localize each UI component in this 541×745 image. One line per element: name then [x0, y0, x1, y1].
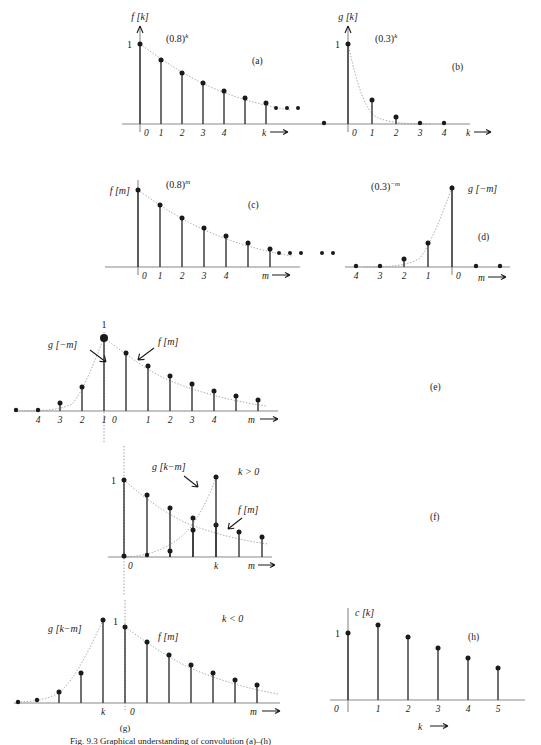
panel-d-tick-4: 0 [456, 271, 461, 281]
panel-g-tick-k: k [101, 707, 106, 717]
panel-d: g [−m] (0.3)−m (d) 4 3 2 1 0 m [320, 180, 510, 283]
panel-g: 1 g [k−m] f [m] k < 0 k 0 m (g) [14, 600, 280, 733]
panel-b-tick-3: 3 [417, 128, 423, 138]
panel-f-amp-label: 1 [111, 475, 116, 486]
panel-b-tick-0: 0 [352, 128, 357, 138]
panel-b-expr-label: (0.3)k [375, 32, 398, 45]
panel-c: f [m] (0.8)m (c) 0 1 2 3 4 m [105, 178, 303, 281]
panel-e-tick-2: 2 [80, 415, 85, 425]
panel-c-tick-1: 1 [158, 271, 163, 281]
panel-c-tag: (c) [248, 200, 259, 211]
panel-f-signal-label-f: f [m] [238, 504, 258, 515]
panel-c-tick-2: 2 [180, 271, 185, 281]
panel-e-tick-8: 4 [212, 415, 217, 425]
panel-g-tag: (g) [120, 723, 131, 733]
panel-d-tick-1: 3 [377, 271, 383, 281]
panel-a-amp-label: 1 [127, 39, 132, 50]
panel-b-axis-label: k [466, 128, 471, 138]
panel-a: f [k] 1 (0.8)k (a) 0 1 2 3 4 k [122, 11, 300, 138]
panel-b-tick-1: 1 [370, 128, 375, 138]
panel-g-axis-label: m [250, 707, 257, 717]
panel-b-tag: (b) [452, 62, 463, 73]
panel-g-amp-label: 1 [113, 616, 118, 627]
panel-g-condition: k < 0 [222, 613, 243, 624]
panel-h-tag: (h) [468, 632, 479, 643]
panel-h-tick-1: 1 [376, 704, 381, 714]
panel-e-signal-label-g: g [−m] [48, 339, 77, 350]
panel-a-tick-4: 4 [222, 128, 227, 138]
panel-e-tick-3: 1 [102, 415, 107, 425]
panel-f: 1 g [k−m] f [m] k > 0 (f) 0 k m [108, 446, 440, 596]
panel-e-tick-5: 1 [146, 415, 151, 425]
panel-a-tick-0: 0 [144, 128, 149, 138]
panel-d-expr-label: (0.3)−m [371, 180, 400, 193]
panel-h-tick-5: 5 [496, 704, 501, 714]
panel-a-tick-1: 1 [159, 128, 164, 138]
panel-a-axis-label: k [262, 128, 267, 138]
panel-h: c [k] 1 (h) 0 1 2 3 4 5 k [330, 607, 525, 732]
panel-h-tick-3: 3 [435, 704, 441, 714]
panel-f-condition: k > 0 [238, 466, 259, 477]
panel-e-tick-4: 0 [112, 415, 117, 425]
panel-f-tick-0: 0 [128, 561, 133, 571]
panel-h-amp-label: 1 [335, 628, 340, 639]
panel-e-tick-0: 4 [36, 415, 41, 425]
panel-a-signal-label: f [k] [131, 11, 149, 22]
figure-canvas: f [k] 1 (0.8)k (a) 0 1 2 3 4 k g [k] 1 (… [0, 0, 541, 745]
panel-g-tick-0: 0 [130, 707, 135, 717]
panel-f-tick-k: k [214, 561, 219, 571]
panel-d-tick-3: 1 [426, 271, 431, 281]
panel-h-tick-2: 2 [406, 704, 411, 714]
panel-e-tick-7: 3 [189, 415, 195, 425]
panel-a-tick-3: 3 [200, 128, 206, 138]
panel-a-tag: (a) [252, 56, 263, 67]
panel-a-expr-label: (0.8)k [166, 32, 189, 45]
convolution-figure: f [k] 1 (0.8)k (a) 0 1 2 3 4 k g [k] 1 (… [0, 0, 541, 745]
panel-b-tick-2: 2 [394, 128, 399, 138]
panel-e-signal-label-f: f [m] [158, 336, 178, 347]
panel-d-tick-2: 2 [402, 271, 407, 281]
panel-c-tick-0: 0 [142, 271, 147, 281]
panel-e-amp-label: 1 [102, 319, 107, 330]
panel-d-signal-label: g [−m] [468, 183, 497, 194]
panel-b-amp-label: 1 [335, 39, 340, 50]
panel-h-tick-4: 4 [466, 704, 471, 714]
panel-e-tag: (e) [430, 382, 441, 393]
panel-d-tick-0: 4 [354, 271, 359, 281]
panel-c-axis-label: m [262, 271, 269, 281]
panel-d-tag: (d) [478, 232, 489, 243]
panel-h-tick-0: 0 [334, 704, 339, 714]
panel-e-axis-label: m [248, 415, 255, 425]
panel-b: g [k] 1 (0.3)k (b) 0 1 2 3 4 k [300, 11, 491, 138]
panel-a-tick-2: 2 [180, 128, 185, 138]
panel-d-axis-label: m [478, 273, 485, 283]
panel-c-signal-label: f [m] [110, 185, 130, 196]
panel-e-tick-1: 3 [57, 415, 63, 425]
panel-g-signal-label-f: f [m] [158, 631, 178, 642]
panel-c-tick-3: 3 [201, 271, 207, 281]
panel-f-tag: (f) [430, 512, 440, 523]
panel-b-tick-4: 4 [442, 128, 447, 138]
panel-c-tick-4: 4 [224, 271, 229, 281]
panel-e: 1 g [−m] f [m] (e) 4 3 2 1 0 1 2 3 4 m [14, 319, 441, 443]
panel-h-signal-label: c [k] [355, 607, 374, 618]
panel-g-signal-label-g: g [k−m] [48, 623, 82, 634]
panel-f-axis-label: m [248, 561, 255, 571]
panel-b-signal-label: g [k] [338, 11, 358, 22]
panel-c-expr-label: (0.8)m [166, 178, 190, 191]
figure-caption: Fig. 9.3 Graphical understanding of conv… [70, 736, 271, 745]
panel-e-tick-6: 2 [168, 415, 173, 425]
panel-h-axis-label: k [418, 722, 423, 732]
panel-f-signal-label-g: g [k−m] [152, 461, 186, 472]
